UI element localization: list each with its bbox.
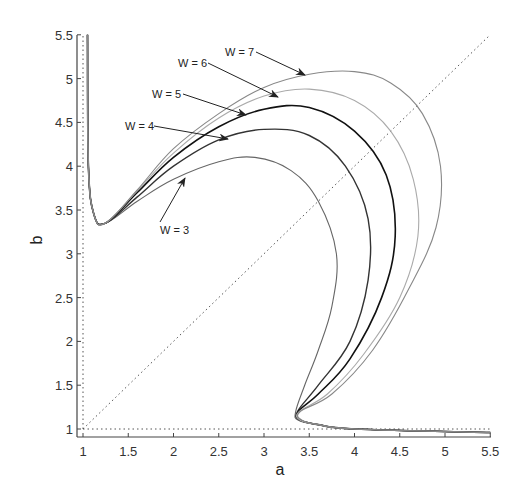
- x-tick-label: 4: [351, 444, 358, 459]
- curve-w4: [88, 35, 491, 433]
- x-tick-label: 4.5: [391, 444, 409, 459]
- y-tick-label: 2: [66, 334, 73, 349]
- y-tick-label: 1.5: [55, 378, 73, 393]
- label-w7: W = 7: [225, 46, 254, 58]
- label-w3: W = 3: [160, 224, 189, 236]
- y-tick-label: 4.5: [55, 115, 73, 130]
- y-tick-label: 3: [66, 247, 73, 262]
- curve-w6: [88, 35, 491, 433]
- y-tick-label: 5.5: [55, 28, 73, 43]
- x-tick-label: 5.5: [481, 444, 499, 459]
- y-axis-label: b: [28, 235, 45, 244]
- curve-w5: [88, 35, 491, 433]
- chart: 11.522.533.544.555.5 11.522.533.544.555.…: [0, 0, 526, 493]
- x-tick-label: 3.5: [300, 444, 318, 459]
- curve-w3: [88, 35, 491, 433]
- label-w6: W = 6: [178, 57, 207, 69]
- diagonal-reference-line: [83, 35, 490, 429]
- x-axis-label: a: [276, 461, 285, 478]
- x-tick-label: 2: [170, 444, 177, 459]
- y-tick-label: 3.5: [55, 203, 73, 218]
- label-w4: W = 4: [125, 120, 154, 132]
- x-tick-label: 1: [79, 444, 86, 459]
- reference-lines: [83, 35, 490, 429]
- x-tick-label: 1.5: [119, 444, 137, 459]
- curve-w7: [88, 35, 491, 433]
- y-tick-label: 5: [66, 72, 73, 87]
- label-w5: W = 5: [152, 88, 181, 100]
- y-tick-label: 1: [66, 422, 73, 437]
- arrow-w6: [208, 63, 278, 97]
- x-tick-label: 5: [441, 444, 448, 459]
- curves: [88, 35, 491, 433]
- x-tick-label: 2.5: [210, 444, 228, 459]
- arrow-w7: [256, 52, 305, 75]
- x-tick-label: 3: [260, 444, 267, 459]
- y-tick-label: 2.5: [55, 291, 73, 306]
- arrow-w5: [183, 94, 246, 115]
- y-tick-label: 4: [66, 159, 73, 174]
